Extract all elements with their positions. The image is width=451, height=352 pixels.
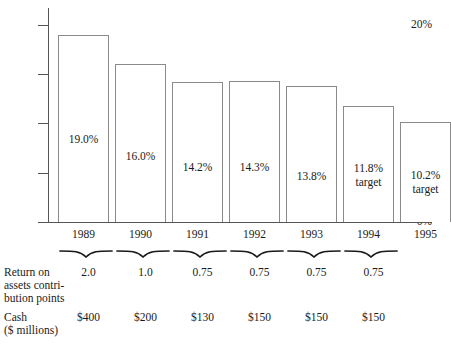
brace-4	[231, 251, 283, 257]
y-axis-tick-20	[38, 25, 49, 26]
x-axis-label-1992: 1992	[229, 228, 280, 241]
x-axis-label-1989: 1989	[58, 228, 109, 241]
roa-value-2: 1.0	[120, 266, 171, 279]
brace-group	[0, 248, 432, 268]
roa-caption-line2: assets contri-	[4, 279, 82, 292]
bar-value-1990: 16.0%	[115, 150, 166, 164]
plot-area: 20% 0% 19.0% 16.0% 14.2% 14.3% 13.8% 11.…	[0, 0, 432, 232]
cash-value-6: $150	[348, 311, 399, 324]
cash-value-1: $400	[63, 311, 114, 324]
y-axis-tick-5	[38, 173, 49, 174]
brace-2	[117, 251, 169, 257]
brace-5	[288, 251, 340, 257]
x-axis-label-1993: 1993	[286, 228, 337, 241]
bar-1989	[58, 35, 109, 222]
cash-value-5: $150	[291, 311, 342, 324]
y-axis-line	[48, 8, 49, 222]
roa-value-3: 0.75	[177, 266, 228, 279]
roa-value-5: 0.75	[291, 266, 342, 279]
bar-1992	[229, 81, 280, 222]
bar-note-1995: target	[400, 183, 451, 197]
y-axis-label-top: 20%	[396, 19, 432, 31]
brace-3	[174, 251, 226, 257]
roa-value-1: 2.0	[63, 266, 114, 279]
cash-value-4: $150	[234, 311, 285, 324]
bar-1991	[172, 82, 223, 222]
bar-1990	[115, 64, 166, 222]
cash-value-2: $200	[120, 311, 171, 324]
roa-caption-line3: bution points	[4, 292, 82, 305]
roa-value-6: 0.75	[348, 266, 399, 279]
brace-1	[60, 251, 112, 257]
bar-value-1994: 11.8%	[343, 162, 394, 176]
cash-value-3: $130	[177, 311, 228, 324]
x-axis-label-1995: 1995	[400, 228, 451, 241]
x-axis-baseline	[38, 222, 432, 223]
bar-value-1993: 13.8%	[286, 170, 337, 184]
y-axis-tick-10	[38, 123, 49, 124]
x-axis-label-1994: 1994	[343, 228, 394, 241]
bar-value-1995: 10.2%	[400, 169, 451, 183]
brace-row	[0, 248, 432, 268]
x-axis-label-1991: 1991	[172, 228, 223, 241]
bar-value-1992: 14.3%	[229, 161, 280, 175]
x-axis-label-1990: 1990	[115, 228, 166, 241]
brace-6	[345, 251, 397, 257]
y-axis-tick-15	[38, 74, 49, 75]
bar-value-1989: 19.0%	[58, 133, 109, 147]
bar-value-1991: 14.2%	[172, 161, 223, 175]
bar-note-1994: target	[343, 176, 394, 190]
roa-value-4: 0.75	[234, 266, 285, 279]
bar-1993	[286, 86, 337, 222]
cash-caption-line2: ($ millions)	[4, 324, 82, 337]
